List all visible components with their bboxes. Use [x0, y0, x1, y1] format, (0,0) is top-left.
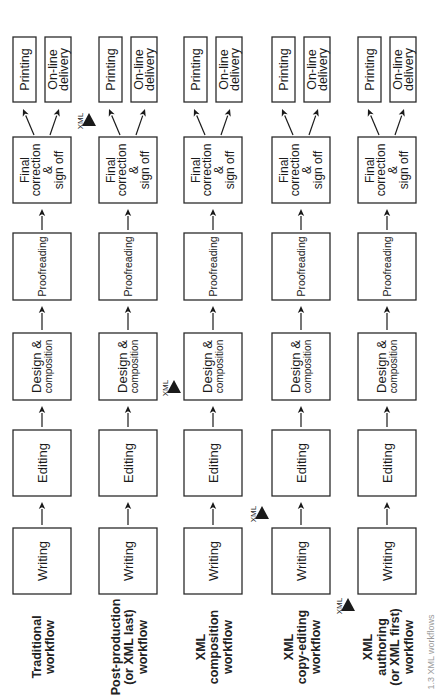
output-online-label-line: delivery: [402, 47, 416, 91]
workflow-label-post-production-line: Post-production: [109, 599, 123, 696]
workflow-label-traditional-line: workflow: [43, 620, 57, 675]
stage-editing-label-line: Editing: [380, 443, 395, 483]
stage-proofreading-label: Proofreading: [295, 236, 307, 296]
stage-design-label-line: composition: [302, 340, 313, 393]
output-online-label: On-linedelivery: [305, 47, 330, 91]
arrow-final-to-online: [221, 109, 231, 135]
arrow-proofreading-to-final: [384, 209, 390, 230]
arrow-proofreading-to-final: [298, 209, 304, 230]
workflow-label-xml-authoring-line: (or XML first): [388, 608, 402, 686]
stage-proofreading-label: Proofreading: [36, 236, 48, 296]
xml-marker-label: XML: [161, 379, 170, 396]
arrow-editing-to-design: [298, 406, 304, 427]
arrow-final-to-printing: [194, 109, 205, 135]
xml-conversion-marker: XML: [335, 597, 355, 614]
arrow-editing-to-design: [210, 406, 216, 427]
arrow-design-to-proofreading: [298, 306, 304, 330]
stage-final-label-line: sign off: [52, 150, 66, 189]
stage-final-label-line: sign off: [138, 150, 152, 189]
stage-proofreading-label: Proofreading: [122, 236, 134, 296]
output-online-label: On-linedelivery: [391, 47, 416, 91]
stage-design-label: Design &composition: [200, 340, 225, 393]
stage-design-label: Design &composition: [115, 340, 140, 393]
stage-design-label-line: Design &: [288, 340, 303, 393]
arrow-final-to-printing: [23, 109, 34, 135]
arrow-final-to-printing: [368, 109, 379, 135]
workflow-label-xml-copy-editing-line: workflow: [309, 620, 323, 675]
xml-conversion-marker: XML: [249, 505, 269, 522]
workflow-label-xml-copy-editing-line: copy-editing: [295, 610, 309, 684]
stage-final-label-line: sign off: [223, 150, 237, 189]
stage-final-label-line: sign off: [311, 150, 325, 189]
output-online-label: On-linedelivery: [217, 47, 242, 91]
stage-editing-label-line: Editing: [294, 443, 309, 483]
stage-design-label-line: composition: [214, 340, 225, 393]
workflow-label-post-production-line: (or XML last): [122, 609, 136, 684]
output-online-label-line: delivery: [228, 47, 242, 91]
stage-proofreading-label: Proofreading: [381, 236, 393, 296]
stage-writing-label-line: Writing: [206, 541, 221, 581]
stage-proofreading-label-line: Proofreading: [381, 236, 393, 296]
workflow-label-xml-authoring: XMLauthoring(or XML first)workflow: [361, 608, 416, 686]
output-online-label: On-linedelivery: [132, 47, 157, 91]
output-online-label-line: delivery: [316, 47, 330, 91]
stage-writing-label: Writing: [121, 541, 136, 581]
arrow-design-to-proofreading: [210, 306, 216, 330]
stage-editing-label: Editing: [121, 443, 136, 483]
workflow-label-xml-authoring-line: workflow: [402, 620, 416, 675]
arrow-proofreading-to-final: [125, 209, 131, 230]
stage-design-label-line: Design &: [29, 340, 44, 393]
stage-writing-label: Writing: [294, 541, 309, 581]
stage-proofreading-label-line: Proofreading: [207, 236, 219, 296]
workflow-label-xml-authoring-line: XML: [361, 633, 375, 660]
workflow-label-xml-authoring-line: authoring: [375, 618, 389, 676]
stage-writing-label: Writing: [35, 541, 50, 581]
output-printing-label-line: Printing: [277, 48, 291, 90]
stage-proofreading-label-line: Proofreading: [295, 236, 307, 296]
stage-writing-label-line: Writing: [380, 541, 395, 581]
workflow-label-post-production: Post-production(or XML last)workflow: [109, 599, 150, 696]
arrow-final-to-printing: [109, 109, 120, 135]
stage-proofreading-label-line: Proofreading: [122, 236, 134, 296]
stage-design-label-line: composition: [388, 340, 399, 393]
stage-design-label-line: Design &: [200, 340, 215, 393]
arrow-design-to-proofreading: [39, 306, 45, 330]
workflow-label-xml-copy-editing: XMLcopy-editingworkflow: [282, 610, 323, 684]
xml-marker-label: XML: [249, 505, 258, 522]
stage-design-label-line: composition: [43, 340, 54, 393]
stage-editing-label: Editing: [35, 443, 50, 483]
stage-writing-label: Writing: [206, 541, 221, 581]
stage-writing-label-line: Writing: [35, 541, 50, 581]
arrow-writing-to-editing: [298, 502, 304, 525]
figure-caption-text: 1.3 XML workflows: [426, 614, 436, 690]
stage-editing-label: Editing: [294, 443, 309, 483]
arrow-editing-to-design: [39, 406, 45, 427]
arrow-final-to-online: [50, 109, 60, 135]
stage-editing-label: Editing: [206, 443, 221, 483]
stage-design-label-line: composition: [129, 340, 140, 393]
stage-design-label: Design &composition: [29, 340, 54, 393]
stage-final-label-line: sign off: [397, 150, 411, 189]
workflow-label-xml-composition-line: composition: [207, 610, 221, 684]
workflow-label-xml-composition: XMLcompositionworkflow: [194, 610, 235, 684]
arrow-final-to-online: [136, 109, 146, 135]
stage-proofreading-label-line: Proofreading: [36, 236, 48, 296]
workflow-label-post-production-line: workflow: [136, 620, 150, 675]
arrow-final-to-online: [395, 109, 405, 135]
stage-editing-label-line: Editing: [206, 443, 221, 483]
workflow-label-traditional-line: Traditional: [30, 615, 44, 678]
workflow-label-xml-composition-line: XML: [194, 633, 208, 660]
xml-workflow-diagram: WritingEditingDesign &compositionProofre…: [0, 0, 436, 699]
workflow-label-traditional: Traditionalworkflow: [30, 615, 58, 678]
output-printing-label: Printing: [18, 48, 32, 90]
output-printing-label-line: Printing: [363, 48, 377, 90]
stage-design-label-line: Design &: [374, 340, 389, 393]
output-printing-label-line: Printing: [18, 48, 32, 90]
stage-editing-label: Editing: [380, 443, 395, 483]
stage-editing-label-line: Editing: [35, 443, 50, 483]
arrow-design-to-proofreading: [384, 306, 390, 330]
output-online-label: On-linedelivery: [46, 47, 71, 91]
output-printing-label: Printing: [363, 48, 377, 90]
stage-design-label-line: Design &: [115, 340, 130, 393]
arrow-final-to-printing: [282, 109, 293, 135]
